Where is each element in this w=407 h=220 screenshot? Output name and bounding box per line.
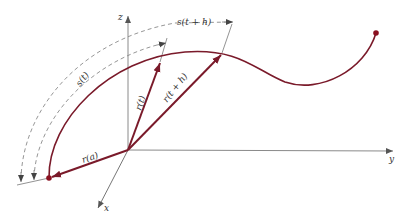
s-t-leader xyxy=(160,38,167,62)
arc-length-s-t-plus-h xyxy=(21,22,232,180)
curve-end-point xyxy=(373,30,379,36)
curve-start-point xyxy=(46,175,52,181)
s-t-plus-h-leader xyxy=(222,24,232,53)
arc-start-tick xyxy=(17,178,49,185)
arc-length-s-t xyxy=(34,43,165,178)
y-axis xyxy=(128,150,393,151)
z-axis-label: z xyxy=(117,12,123,22)
r-t-label: r(t) xyxy=(133,94,147,112)
s-t-plus-h-label: s(t + h) xyxy=(177,17,212,27)
arc-length-diagram: z y x s(t) s(t + h) r(a) r(t) r(t + h) xyxy=(0,0,407,220)
s-t-label: s(t) xyxy=(74,70,92,89)
y-axis-label: y xyxy=(388,154,395,164)
x-axis-label: x xyxy=(104,203,109,213)
r-t-plus-h-label: r(t + h) xyxy=(161,71,190,104)
r-a-label: r(a) xyxy=(81,150,100,165)
